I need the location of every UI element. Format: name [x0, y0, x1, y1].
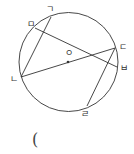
label-b: ㅂ: [120, 63, 128, 73]
label-n: ㄴ: [10, 74, 18, 84]
center-point: [67, 61, 70, 64]
label-r: ㄹ: [81, 109, 89, 119]
chord-d-r: [87, 48, 115, 106]
label-d: ㄷ: [119, 42, 127, 52]
chord-g-n: [21, 17, 51, 77]
label-m: ㅁ: [27, 19, 35, 29]
answer-blank: (: [32, 130, 38, 149]
label-g: ㄱ: [46, 4, 54, 14]
label-center: ㅇ: [65, 48, 73, 58]
circle-diagram: ㅇ ㄱ ㅁ ㄴ ㄷ ㅂ ㄹ: [0, 0, 134, 154]
chord-m-b: [35, 28, 117, 67]
